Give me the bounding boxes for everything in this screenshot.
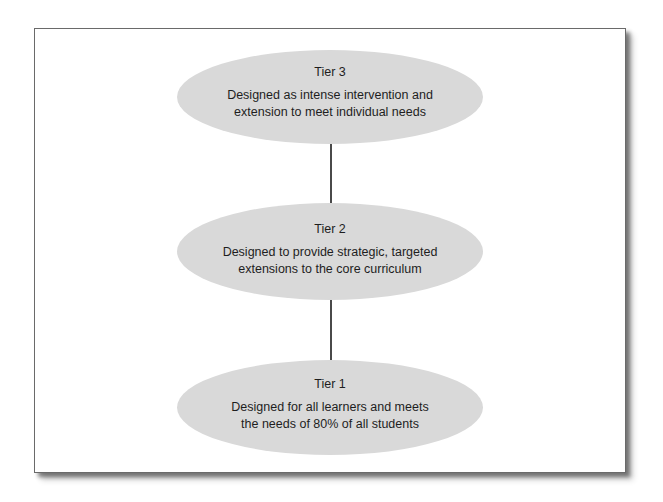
- tier-2-title: Tier 2: [314, 222, 346, 237]
- tier-3-description-line-2: extension to meet individual needs: [215, 104, 445, 121]
- connector-tier2-tier1: [330, 300, 332, 360]
- connector-tier3-tier2: [330, 144, 332, 203]
- tier-1-title: Tier 1: [314, 377, 346, 392]
- tier-3-description: Designed as intense intervention and ext…: [215, 87, 445, 121]
- tier-2-description-line-1: Designed to provide strategic, targeted: [215, 244, 445, 261]
- tier-1-description-line-2: the needs of 80% of all students: [215, 416, 445, 433]
- tier-3-description-line-1: Designed as intense intervention and: [215, 87, 445, 104]
- tier-2-description-line-2: extensions to the core curriculum: [215, 261, 445, 278]
- tier-1-node: Tier 1 Designed for all learners and mee…: [177, 360, 483, 455]
- tier-1-description-line-1: Designed for all learners and meets: [215, 399, 445, 416]
- tier-2-node: Tier 2 Designed to provide strategic, ta…: [177, 203, 483, 300]
- tier-3-node: Tier 3 Designed as intense intervention …: [177, 50, 483, 144]
- tier-2-description: Designed to provide strategic, targeted …: [215, 244, 445, 278]
- tier-3-title: Tier 3: [314, 65, 346, 80]
- tier-1-description: Designed for all learners and meets the …: [215, 399, 445, 433]
